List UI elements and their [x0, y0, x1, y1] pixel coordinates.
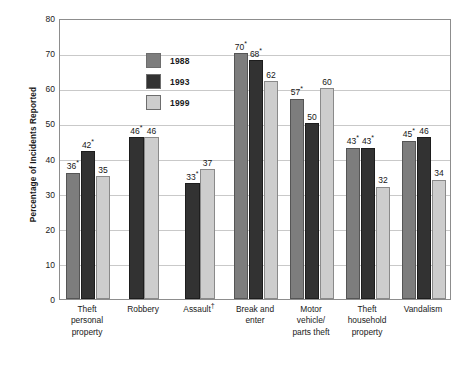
y-axis-tick-label: 10	[33, 260, 55, 270]
x-axis-category-labels: TheftpersonalpropertyRobberyAssault†Brea…	[59, 304, 451, 364]
bar-value-label: 57*	[282, 87, 312, 97]
bar-value-label: 37	[193, 158, 223, 168]
bar-1988-4	[290, 99, 305, 299]
bar-1993-5	[361, 148, 376, 299]
bar-1999-6	[432, 180, 447, 299]
bar-chart: Percentage of Incidents Reported 0102030…	[0, 0, 466, 366]
bar-1999-0	[96, 176, 111, 299]
y-axis-tick-label: 80	[33, 14, 55, 24]
y-axis-tick-label: 30	[33, 190, 55, 200]
legend-swatch-icon-1988	[146, 53, 161, 68]
bar-1999-2	[200, 169, 215, 299]
bar-1993-2	[185, 183, 200, 299]
bar-1988-3	[234, 53, 249, 299]
bar-value-label: 32	[368, 175, 398, 185]
bar-1988-6	[402, 141, 417, 299]
bar-1993-3	[249, 60, 264, 299]
legend: 1988 1993 1999	[146, 50, 218, 113]
legend-item-1988: 1988	[146, 50, 218, 71]
bar-1999-1	[144, 137, 159, 299]
bar-1999-5	[376, 187, 391, 299]
y-axis-tick-label: 20	[33, 225, 55, 235]
bar-1988-0	[66, 173, 81, 299]
bar-1993-4	[305, 123, 320, 299]
y-axis-tick-label: 50	[33, 119, 55, 129]
bar-value-label: 35	[88, 165, 118, 175]
plot-area: 36*42*3546*4633*3770*68*6257*506043*43*3…	[59, 19, 451, 300]
legend-label-1993: 1993	[170, 77, 190, 87]
legend-item-1999: 1999	[146, 92, 218, 113]
bar-value-label: 68*	[241, 49, 271, 59]
legend-label-1999: 1999	[170, 98, 190, 108]
bar-value-label: 60	[312, 77, 342, 87]
y-axis-tick-labels: 01020304050607080	[31, 19, 55, 300]
bar-value-label: 42*	[73, 140, 103, 150]
bar-value-label: 34	[424, 168, 454, 178]
bar-value-label: 46	[409, 126, 439, 136]
bar-value-label: 46	[137, 126, 167, 136]
bar-1988-5	[346, 148, 361, 299]
x-axis-category-label: Vandalism	[387, 304, 459, 315]
bar-value-label: 43*	[353, 136, 383, 146]
bar-1999-4	[320, 88, 335, 299]
legend-item-1993: 1993	[146, 71, 218, 92]
y-axis-tick-label: 70	[33, 49, 55, 59]
legend-swatch-icon-1993	[146, 74, 161, 89]
bar-1993-1	[129, 137, 144, 299]
y-axis-tick-label: 40	[33, 155, 55, 165]
bar-series-container: 36*42*3546*4633*3770*68*6257*506043*43*3…	[60, 20, 450, 299]
legend-label-1988: 1988	[170, 56, 190, 66]
bar-1993-6	[417, 137, 432, 299]
bar-1999-3	[264, 81, 279, 299]
legend-swatch-icon-1999	[146, 95, 161, 110]
bar-value-label: 62	[256, 70, 286, 80]
y-axis-tick-label: 60	[33, 84, 55, 94]
